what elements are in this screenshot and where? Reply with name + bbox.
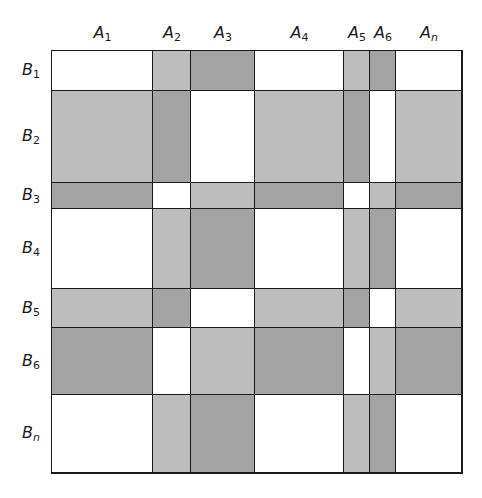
block-b4-an (395, 208, 462, 289)
column-label-a1: A1 (94, 25, 112, 43)
row-label-b2: B2 (22, 128, 40, 146)
column-label-a3: A3 (214, 25, 232, 43)
column-label-a1-symbol: A (94, 23, 105, 42)
column-label-a4-subscript: 4 (301, 31, 308, 44)
column-label-a2: A2 (163, 25, 181, 43)
row-label-b6: B6 (22, 353, 40, 371)
row-label-bn: Bn (22, 425, 40, 443)
column-label-a5: A5 (348, 25, 366, 43)
block-b4-a2 (152, 208, 191, 289)
row-label-b1-symbol: B (22, 60, 33, 79)
row-label-b1-subscript: 1 (33, 68, 40, 81)
block-b4-a4 (254, 208, 344, 289)
row-label-b6-symbol: B (22, 351, 33, 370)
column-label-an-subscript: n (431, 31, 438, 44)
block-b1-a6 (369, 50, 396, 91)
row-label-b4: B4 (22, 240, 40, 258)
row-label-b6-subscript: 6 (33, 359, 40, 372)
block-b2-a1 (51, 90, 153, 183)
block-b3-a2 (152, 182, 191, 209)
column-label-a6: A6 (374, 25, 392, 43)
block-b3-a4 (254, 182, 344, 209)
block-b2-a5 (343, 90, 370, 183)
block-partition-diagram: A1A2A3A4A5A6An B1B2B3B4B5B6Bn (0, 0, 482, 498)
block-b3-a5 (343, 182, 370, 209)
block-b2-a4 (254, 90, 344, 183)
column-label-a4-symbol: A (291, 23, 302, 42)
block-b5-an (395, 288, 462, 328)
column-label-a2-symbol: A (163, 23, 174, 42)
row-label-b2-symbol: B (22, 126, 33, 145)
block-b6-a2 (152, 327, 191, 395)
block-b1-a3 (190, 50, 255, 91)
block-b3-a3 (190, 182, 255, 209)
block-b5-a2 (152, 288, 191, 328)
block-b1-a4 (254, 50, 344, 91)
block-b5-a3 (190, 288, 255, 328)
block-b5-a1 (51, 288, 153, 328)
row-label-b3-symbol: B (22, 185, 33, 204)
block-b1-a1 (51, 50, 153, 91)
column-label-a2-subscript: 2 (174, 31, 181, 44)
block-b1-a2 (152, 50, 191, 91)
column-label-a4: A4 (291, 25, 309, 43)
row-label-b1: B1 (22, 62, 40, 80)
block-b4-a6 (369, 208, 396, 289)
row-label-b3-subscript: 3 (33, 193, 40, 206)
block-b3-a6 (369, 182, 396, 209)
column-label-a3-subscript: 3 (225, 31, 232, 44)
block-b4-a5 (343, 208, 370, 289)
block-b5-a4 (254, 288, 344, 328)
column-label-a6-subscript: 6 (385, 31, 392, 44)
row-label-b5-symbol: B (22, 298, 33, 317)
block-b4-a1 (51, 208, 153, 289)
block-b6-a3 (190, 327, 255, 395)
block-b5-a6 (369, 288, 396, 328)
column-label-a6-symbol: A (374, 23, 385, 42)
block-b1-a5 (343, 50, 370, 91)
column-label-a3-symbol: A (214, 23, 225, 42)
block-b6-a4 (254, 327, 344, 395)
column-label-a5-subscript: 5 (359, 31, 366, 44)
column-label-an: An (420, 25, 438, 43)
block-bn-an (395, 394, 462, 473)
block-bn-a4 (254, 394, 344, 473)
block-bn-a3 (190, 394, 255, 473)
row-label-b5: B5 (22, 300, 40, 318)
block-b2-an (395, 90, 462, 183)
block-b3-a1 (51, 182, 153, 209)
row-label-b3: B3 (22, 187, 40, 205)
block-b6-a5 (343, 327, 370, 395)
block-b2-a2 (152, 90, 191, 183)
block-bn-a2 (152, 394, 191, 473)
block-b6-an (395, 327, 462, 395)
column-label-a1-subscript: 1 (104, 31, 111, 44)
block-bn-a5 (343, 394, 370, 473)
block-b4-a3 (190, 208, 255, 289)
row-label-bn-subscript: n (33, 431, 40, 444)
row-label-b4-symbol: B (22, 238, 33, 257)
block-b2-a6 (369, 90, 396, 183)
block-b6-a1 (51, 327, 153, 395)
block-bn-a6 (369, 394, 396, 473)
block-b1-an (395, 50, 462, 91)
row-label-b5-subscript: 5 (33, 306, 40, 319)
block-b6-a6 (369, 327, 396, 395)
block-b5-a5 (343, 288, 370, 328)
row-label-b2-subscript: 2 (33, 134, 40, 147)
column-label-a5-symbol: A (348, 23, 359, 42)
column-label-an-symbol: A (420, 23, 431, 42)
block-b2-a3 (190, 90, 255, 183)
row-label-bn-symbol: B (22, 423, 33, 442)
block-b3-an (395, 182, 462, 209)
row-label-b4-subscript: 4 (33, 246, 40, 259)
block-bn-a1 (51, 394, 153, 473)
